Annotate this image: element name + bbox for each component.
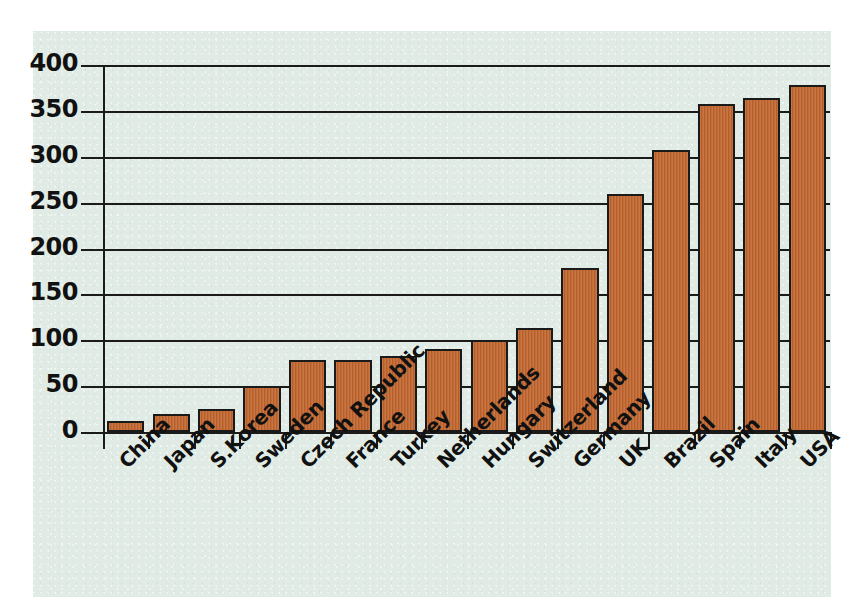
bar-chart-figure: 050100150200250300350400 ChinaJapanS.Kor… bbox=[0, 0, 861, 615]
x-axis-category-label: UK bbox=[614, 434, 653, 473]
x-axis-category-label: Spain bbox=[704, 412, 765, 473]
x-axis-category-label: Brazil bbox=[659, 412, 720, 473]
x-axis-category-label: USA bbox=[795, 424, 844, 473]
x-axis-category-label: China bbox=[114, 412, 175, 473]
x-axis-labels-group: ChinaJapanS.KoreaSwedenCzech RepublicFra… bbox=[0, 0, 861, 615]
